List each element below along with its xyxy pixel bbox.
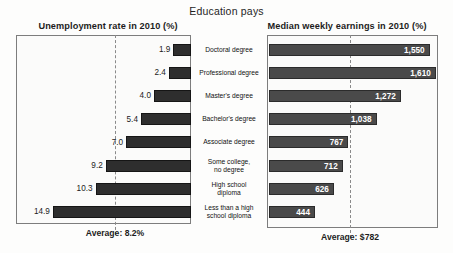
unemployment-bar-group: 4.0 [140,90,191,102]
earnings-value-label: 1,038 [351,115,372,124]
right-panel-title: Median weekly earnings in 2010 (%) [252,21,442,31]
unemployment-value-label: 4.0 [140,91,151,100]
unemployment-value-label: 7.0 [112,138,123,147]
earnings-bar-group: 1,610 [269,67,436,79]
unemployment-bar-group: 14.9 [34,206,191,218]
earnings-bar: 626 [269,183,334,195]
left-panel-title: Unemployment rate in 2010 (%) [18,21,198,31]
earnings-bar: 712 [269,160,343,172]
unemployment-value-label: 2.4 [154,68,165,77]
earnings-value-label: 444 [296,207,310,216]
unemployment-value-label: 1.9 [159,45,170,54]
unemployment-value-label: 5.4 [127,115,138,124]
earnings-bar-group: 626 [269,183,334,195]
earnings-bar: 1,550 [269,44,430,56]
unemployment-bar [141,113,191,125]
category-label: Some college,no degree [193,157,265,173]
unemployment-bar [169,67,191,79]
earnings-bar-group: 444 [269,206,315,218]
chart-row: 1.9Doctoral degree1,550 [0,38,453,61]
category-label: Master's degree [193,92,265,100]
category-label: Professional degree [193,69,265,77]
unemployment-bar-group: 7.0 [112,136,191,148]
unemployment-bar-group: 2.4 [154,67,191,79]
earnings-value-label: 712 [324,161,338,170]
page-title: Education pays [0,5,453,17]
unemployment-bar-group: 9.2 [91,160,191,172]
earnings-bar-group: 712 [269,160,343,172]
earnings-value-label: 1,610 [410,68,431,77]
earnings-value-label: 1,550 [404,45,425,54]
category-label: Bachelor's degree [193,115,265,123]
unemployment-value-label: 9.2 [91,161,102,170]
earnings-bar-group: 1,272 [269,90,401,102]
earnings-bar: 1,610 [269,67,436,79]
category-label: Associate degree [193,138,265,146]
unemployment-value-label: 10.3 [77,184,93,193]
chart-row: 14.9Less than a highschool diploma444 [0,200,453,223]
earnings-bar-group: 767 [269,136,348,148]
earnings-bar: 444 [269,206,315,218]
earnings-bar: 1,038 [269,113,377,125]
chart-row: 4.0Master's degree1,272 [0,84,453,107]
category-label: Less than a highschool diploma [193,204,265,220]
unemployment-bar [154,90,191,102]
unemployment-bar-group: 10.3 [77,183,191,195]
unemployment-bar-group: 1.9 [159,44,191,56]
category-label: High schooldiploma [193,181,265,197]
earnings-value-label: 1,272 [375,91,396,100]
unemployment-bar-group: 5.4 [127,113,191,125]
unemployment-bar [96,183,191,195]
unemployment-bar [126,136,191,148]
chart-row: 7.0Associate degree767 [0,131,453,154]
unemployment-bar [53,206,191,218]
category-label: Doctoral degree [193,46,265,54]
earnings-value-label: 626 [315,184,329,193]
left-average-label: Average: 8.2% [86,228,144,238]
chart-row: 10.3High schooldiploma626 [0,177,453,200]
unemployment-bar [106,160,191,172]
earnings-bar-group: 1,038 [269,113,377,125]
right-average-label: Average: $782 [321,232,379,242]
earnings-bar-group: 1,550 [269,44,430,56]
chart-rows: 1.9Doctoral degree1,5502.4Professional d… [0,38,453,226]
earnings-bar: 767 [269,136,348,148]
earnings-bar: 1,272 [269,90,401,102]
earnings-value-label: 767 [330,138,344,147]
chart-row: 2.4Professional degree1,610 [0,61,453,84]
chart-row: 5.4Bachelor's degree1,038 [0,108,453,131]
unemployment-bar [173,44,191,56]
unemployment-value-label: 14.9 [34,207,50,216]
education-pays-chart: Education pays Unemployment rate in 2010… [0,0,453,253]
chart-row: 9.2Some college,no degree712 [0,154,453,177]
